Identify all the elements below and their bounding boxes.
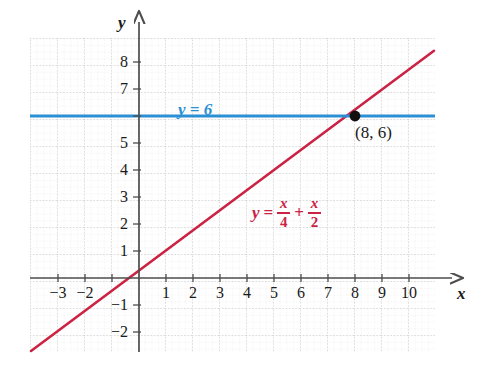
red-eq-frac2-numerator: x — [309, 196, 321, 212]
red-line-equation-label: y = x 4 + x 2 — [252, 196, 321, 230]
blue-line-equation-label: y = 6 — [178, 101, 212, 118]
y-tick-label-8: 8 — [104, 54, 128, 70]
y-tick-label-7: 7 — [104, 81, 128, 97]
red-eq-frac1-numerator: x — [278, 196, 290, 212]
red-eq-plus: + — [294, 204, 304, 221]
x-tick-label-neg2: −2 — [69, 285, 101, 301]
x-tick-label-6: 6 — [289, 285, 313, 301]
y-tick-label-3: 3 — [104, 189, 128, 205]
graph-figure: 8 7 5 4 3 2 1 −1 −2 −3 −2 1 2 3 4 5 6 7 … — [0, 0, 487, 374]
x-tick-label-3: 3 — [208, 285, 232, 301]
intersection-point-marker — [350, 111, 361, 122]
x-tick-label-1: 1 — [154, 285, 178, 301]
red-eq-frac2-denominator: 2 — [309, 214, 321, 230]
x-tick-label-7: 7 — [316, 285, 340, 301]
plot-canvas — [0, 0, 487, 374]
y-tick-label-neg2: −2 — [98, 324, 128, 340]
red-eq-fraction-one: x 4 — [277, 196, 290, 230]
y-axis-label: y — [118, 14, 126, 31]
red-eq-equals: = — [264, 204, 274, 221]
x-tick-label-2: 2 — [181, 285, 205, 301]
x-tick-label-8: 8 — [343, 285, 367, 301]
red-eq-lhs: y — [252, 204, 260, 221]
red-eq-frac1-denominator: 4 — [278, 214, 290, 230]
x-tick-label-4: 4 — [235, 285, 259, 301]
x-tick-label-10: 10 — [395, 285, 423, 301]
intersection-point-label: (8, 6) — [355, 124, 392, 141]
x-tick-label-5: 5 — [262, 285, 286, 301]
red-eq-fraction-two: x 2 — [308, 196, 321, 230]
y-tick-label-neg1: −1 — [98, 297, 128, 313]
x-axis-label: x — [457, 285, 466, 302]
y-tick-label-2: 2 — [104, 216, 128, 232]
x-tick-label-9: 9 — [370, 285, 394, 301]
y-tick-label-1: 1 — [104, 243, 128, 259]
y-tick-label-5: 5 — [104, 135, 128, 151]
y-tick-label-4: 4 — [104, 162, 128, 178]
